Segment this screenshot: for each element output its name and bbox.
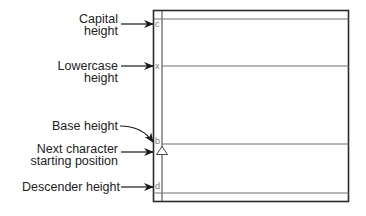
next-char-label-line2: starting position	[30, 155, 118, 167]
character-cell-frame	[154, 11, 349, 202]
next-character-label: Next character starting position	[30, 143, 118, 167]
lowercase-glyph: x	[155, 62, 160, 71]
capital-height-label: Capital height	[79, 13, 118, 37]
base-glyph: b	[155, 137, 160, 146]
descender-height-label: Descender height	[22, 181, 120, 193]
next-character-triangle-icon	[157, 147, 168, 155]
base-label-line1: Base height	[52, 120, 118, 132]
lowercase-label-line2: height	[58, 72, 118, 84]
base-height-label: Base height	[52, 120, 118, 132]
base-arrow-icon	[120, 126, 153, 142]
capital-label-line2: height	[79, 25, 118, 37]
descender-label-line1: Descender height	[22, 181, 120, 193]
lowercase-height-label: Lowercase height	[58, 60, 118, 84]
descender-glyph: d	[155, 182, 160, 191]
capital-glyph: c	[155, 20, 160, 29]
